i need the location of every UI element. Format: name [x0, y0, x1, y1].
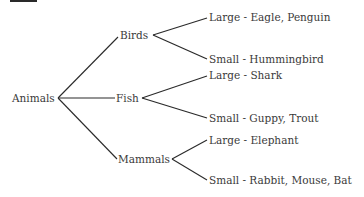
- leaf-fish-small: Small - Guppy, Trout: [209, 112, 318, 124]
- leaf-birds-small: Small - Hummingbird: [209, 53, 324, 65]
- node-fish: Fish: [116, 92, 139, 104]
- edge-mammals-large: [172, 140, 207, 159]
- edge-fish-small: [142, 98, 207, 118]
- edge-mammals-small: [172, 159, 207, 180]
- leaf-mammals-large: Large - Elephant: [209, 134, 298, 146]
- edge-birds-large: [153, 18, 207, 35]
- node-animals: Animals: [12, 92, 55, 104]
- edge-fish-large: [142, 76, 207, 98]
- edge-animals-birds: [58, 37, 118, 98]
- edge-birds-small: [153, 35, 207, 59]
- leaf-birds-large: Large - Eagle, Penguin: [209, 11, 330, 23]
- edge-animals-mammals: [58, 98, 117, 159]
- node-birds: Birds: [120, 29, 148, 41]
- leaf-mammals-small: Small - Rabbit, Mouse, Bat: [209, 174, 352, 186]
- leaf-fish-large: Large - Shark: [209, 69, 282, 81]
- node-mammals: Mammals: [118, 153, 170, 165]
